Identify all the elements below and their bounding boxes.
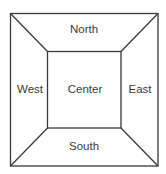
south-label: South [69,141,99,153]
center-label: Center [68,84,103,96]
diagonal-bottom-left [11,128,48,166]
diagonal-top-right [121,14,158,52]
east-label: East [128,84,151,96]
diagonal-bottom-right [121,128,158,166]
north-label: North [70,24,98,36]
west-label: West [17,84,43,96]
diagonal-top-left [11,14,48,52]
